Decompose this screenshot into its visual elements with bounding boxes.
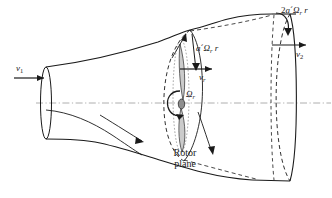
induced-wake-radius: r — [304, 5, 308, 15]
leader-upstream-shaft — [100, 115, 142, 141]
outlet-ellipse-hidden — [276, 14, 290, 181]
wake-guide-top — [190, 15, 272, 31]
leader-rotorplane-shaft — [198, 112, 212, 152]
rotor-plane-line-1: Rotor — [157, 148, 213, 159]
omega-subscript: r — [193, 93, 196, 100]
rotor-tangential-arrow-head — [192, 63, 200, 71]
outlet-velocity-subscript: 2 — [300, 53, 303, 60]
rotor-plane-label: Rotor plane — [157, 148, 213, 169]
rotor-velocity-label: vr — [199, 73, 206, 82]
induced-wake-subscript: r — [300, 9, 303, 16]
outlet-velocity-label: v2 — [296, 50, 303, 59]
rotor-angular-speed-label: Ωr — [186, 90, 195, 99]
rotor-velocity-arrow-head — [205, 66, 212, 72]
induced-rotor-subscript: r — [210, 47, 213, 54]
leader-upstream-head — [135, 137, 144, 144]
streamtube-diagram: v1 v2 vr Ωr a´Ωr r 2a´Ωr r Rotor plane — [0, 0, 332, 198]
induced-rotor-radius: r — [215, 43, 219, 53]
rotor-plane-line-2: plane — [157, 159, 213, 170]
outlet-ellipse-front — [290, 14, 296, 181]
wake-tangential-curved-arrow-head — [284, 28, 292, 36]
rotor-hub — [178, 99, 184, 109]
lower-boundary-upstream — [46, 139, 150, 157]
inlet-velocity-arrow-head — [37, 75, 44, 81]
induced-tangential-rotor-label: a´Ωr r — [196, 44, 218, 53]
outlet-far-rim-dashed — [271, 15, 274, 180]
rotor-velocity-subscript: r — [203, 76, 206, 83]
inlet-velocity-subscript: 1 — [20, 67, 23, 74]
induced-tangential-wake-label: 2a´Ωr r — [281, 6, 308, 15]
upper-boundary-upstream — [46, 30, 190, 67]
rotor-blade-upper — [179, 44, 184, 100]
upper-boundary-wake — [190, 14, 272, 30]
lower-boundary-exit — [252, 180, 290, 181]
omega-symbol: Ω — [186, 89, 193, 99]
induced-wake-omega: Ω — [293, 5, 300, 15]
inlet-velocity-label: v1 — [16, 64, 23, 73]
outlet-velocity-arrow-head — [299, 42, 306, 48]
